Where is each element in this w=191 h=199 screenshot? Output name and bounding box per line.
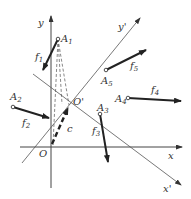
a1-label: A1 (60, 33, 73, 46)
point-a5 (104, 68, 108, 72)
a2-label: A2 (9, 91, 22, 104)
a3-label: A3 (96, 102, 109, 115)
a4-label: A4 (114, 93, 127, 106)
f1-label: f1 (34, 51, 43, 64)
a5-label: A5 (100, 75, 113, 88)
y-prime-axis-label: y' (117, 21, 126, 32)
f5-label: f5 (129, 60, 139, 73)
point-a1 (56, 37, 60, 41)
y-axis-label: y (37, 17, 44, 28)
force-diagram: y x y' x' O O' c A1 A2 A3 A4 A5 f1 f2 f3… (0, 0, 191, 199)
f4-label: f4 (150, 84, 159, 97)
dashed-line (58, 39, 69, 105)
origin-o-label: O (39, 148, 47, 159)
force-f4-arrow (128, 98, 181, 101)
vector-c (52, 108, 68, 144)
f3-label: f3 (91, 125, 101, 138)
f2-label: f2 (21, 117, 31, 130)
x-axis-label: x (168, 150, 174, 161)
point-a2 (11, 105, 15, 109)
x-prime-axis-label: x' (163, 183, 171, 194)
vector-c-label: c (67, 123, 73, 134)
origin-o-prime-label: O' (73, 96, 84, 107)
force-f3-arrow (100, 114, 108, 162)
force-f2-arrow (13, 107, 49, 118)
point-a4 (126, 96, 130, 100)
